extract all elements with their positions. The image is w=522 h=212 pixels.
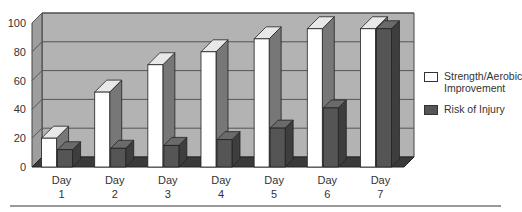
y-tick-label: 20 bbox=[14, 132, 26, 144]
x-tick-label: Day bbox=[318, 174, 338, 186]
chart-legend: Strength/Aerobic Improvement Risk of Inj… bbox=[424, 70, 522, 124]
legend-swatch-risk bbox=[424, 105, 438, 115]
x-tick-label: 6 bbox=[324, 188, 330, 200]
y-tick-label: 0 bbox=[20, 161, 26, 173]
bar-risk-day-7 bbox=[376, 21, 399, 167]
bar-risk-day-5 bbox=[270, 120, 293, 167]
x-tick-label: Day bbox=[264, 174, 284, 186]
legend-label-risk: Risk of Injury bbox=[444, 103, 505, 115]
x-tick-label: 4 bbox=[218, 188, 224, 200]
x-tick-label: 5 bbox=[271, 188, 277, 200]
legend-label-line: Improvement bbox=[444, 82, 505, 94]
bar-risk-day-4 bbox=[217, 132, 240, 167]
legend-label-line: Strength/Aerobic bbox=[444, 70, 522, 82]
x-tick-label: 7 bbox=[377, 188, 383, 200]
chart-side-wall bbox=[32, 13, 42, 167]
x-tick-label: Day bbox=[371, 174, 391, 186]
x-tick-label: 1 bbox=[59, 188, 65, 200]
x-tick-label: 3 bbox=[165, 188, 171, 200]
legend-swatch-strength bbox=[424, 72, 438, 82]
legend-label-strength: Strength/Aerobic Improvement bbox=[444, 70, 522, 94]
bar-risk-day-6 bbox=[323, 100, 346, 167]
x-tick-label: Day bbox=[158, 174, 178, 186]
bottom-rule bbox=[10, 205, 501, 207]
y-tick-label: 60 bbox=[14, 75, 26, 87]
x-tick-label: Day bbox=[105, 174, 125, 186]
legend-item-strength: Strength/Aerobic Improvement bbox=[424, 70, 522, 94]
y-tick-label: 100 bbox=[8, 17, 26, 29]
y-tick-label: 80 bbox=[14, 46, 26, 58]
x-tick-label: 2 bbox=[112, 188, 118, 200]
bar-risk-day-3 bbox=[164, 137, 187, 167]
legend-item-risk: Risk of Injury bbox=[424, 103, 522, 115]
x-tick-label: Day bbox=[211, 174, 231, 186]
x-tick-label: Day bbox=[52, 174, 72, 186]
y-tick-label: 40 bbox=[14, 103, 26, 115]
bar-risk-day-2 bbox=[111, 140, 134, 167]
